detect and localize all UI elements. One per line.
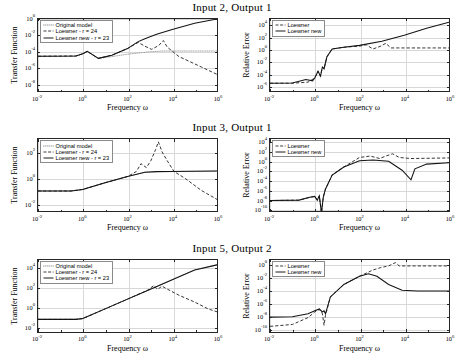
x-tick [83,329,84,331]
panel-title: Input 5, Output 2 [0,241,464,255]
x-tick-minor [428,90,429,91]
x-tick-minor [293,210,294,211]
x-tick-label: 104 [400,95,409,102]
y-tick-right [447,62,449,63]
y-tick-label: 10-4 [246,177,267,184]
y-tick-label: 10-10 [246,206,267,213]
legend-item[interactable]: Loewner new [275,149,322,155]
legend-item[interactable]: Loewner new - r = 23 [43,35,110,41]
y-tick-right [447,171,449,172]
legend-item[interactable]: Loewner new [275,269,322,275]
x-tick [315,209,316,211]
x-tick-minor [106,90,107,91]
x-tick-minor [61,90,62,91]
x-tick-top [406,19,407,21]
legend-line-swatch [43,28,54,34]
x-axis-title: Frequency ω [37,103,218,112]
legend-line-swatch [43,269,54,275]
y-tick [270,210,272,211]
y-tick-label: 10-10 [246,325,267,332]
y-tick-label: 10-4 [246,287,267,294]
x-tick [361,329,362,331]
x-tick [174,329,175,331]
y-tick-right [447,25,449,26]
y-tick-right [447,191,449,192]
legend-item[interactable]: Loewner new - r = 23 [43,275,110,281]
figure-root: Input 2, Output 1Transfer FunctionFreque… [0,0,464,361]
legend-item[interactable]: Loewner new - r = 23 [43,155,110,161]
panel-title: Input 3, Output 1 [0,120,464,134]
legend-right[interactable]: LoewnerLoewner new [272,140,325,157]
x-tick [361,209,362,211]
x-tick [315,89,316,91]
x-tick-minor [196,330,197,331]
legend-left[interactable]: Original modelLoewner - r = 24Loewner ne… [40,261,113,284]
y-tick-label: 10-2 [246,58,267,65]
x-axis-title: Frequency ω [37,223,218,232]
y-tick-right [447,181,449,182]
y-tick-label: 10-6 [246,82,267,89]
y-tick [270,171,272,172]
x-tick-top [406,139,407,141]
y-tick-label: 10-2 [246,274,267,281]
y-tick-right [447,152,449,153]
legend-line-swatch [275,28,286,34]
y-tick [270,38,272,39]
series-line [38,171,217,191]
x-tick-minor [61,330,62,331]
y-tick-label: 10-2 [246,167,267,174]
y-tick-right [215,288,217,289]
x-tick-minor [106,330,107,331]
plot-panel-left: Transfer FunctionFrequency ω10-210010210… [0,133,232,240]
legend-left[interactable]: Original modelLoewner - r = 24Loewner ne… [40,20,113,43]
y-tick [270,75,272,76]
x-tick-label: 100 [310,215,319,222]
figure-row-3: Input 5, Output 2Transfer FunctionFreque… [0,241,464,361]
legend-line-swatch [275,22,286,28]
y-tick-right [447,278,449,279]
y-tick [270,201,272,202]
legend-item[interactable]: Loewner new [275,28,322,34]
x-tick-top [174,19,175,21]
y-tick-right [215,268,217,269]
x-tick-minor [338,90,339,91]
y-tick [270,191,272,192]
y-tick [38,288,40,289]
y-tick-label: 10-2 [14,201,35,208]
y-tick-label: 100 [14,174,35,181]
x-tick-minor [383,90,384,91]
x-tick-label: 106 [214,215,223,222]
series-line [270,160,449,212]
y-tick [270,62,272,63]
legend-line-swatch [43,22,54,28]
y-tick-label: 10-2 [14,323,35,330]
y-tick [270,162,272,163]
y-tick-label: 102 [246,147,267,154]
x-tick-minor [293,330,294,331]
x-tick [129,329,130,331]
x-tick-label: 10-2 [264,335,274,342]
y-tick-label: 10-2 [14,31,35,38]
y-tick-right [215,328,217,329]
y-tick-right [447,317,449,318]
x-tick-top [38,139,39,141]
x-tick-top [129,19,130,21]
legend-label: Loewner new [288,269,322,275]
legend-right[interactable]: LoewnerLoewner new [272,20,325,37]
y-tick-label: 102 [14,148,35,155]
x-tick-minor [106,210,107,211]
y-tick [38,328,40,329]
legend-left[interactable]: Original modelLoewner - r = 24Loewner ne… [40,140,113,163]
legend-line-swatch [43,149,54,155]
series-line [270,154,449,212]
legend-line-swatch [43,275,54,281]
x-tick [83,89,84,91]
legend-right[interactable]: LoewnerLoewner new [272,261,325,278]
x-tick-label: 10-2 [32,215,42,222]
x-tick [406,209,407,211]
legend-label: Loewner new [288,28,322,34]
y-tick-right [447,201,449,202]
legend-line-swatch [43,155,54,161]
legend-line-swatch [275,143,286,149]
x-tick [129,209,130,211]
